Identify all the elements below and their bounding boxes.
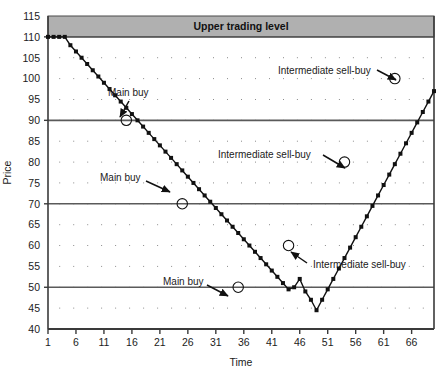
grid-dot bbox=[157, 224, 158, 225]
grid-dot bbox=[129, 308, 130, 309]
grid-dot bbox=[297, 99, 298, 100]
y-tick-label: 40 bbox=[28, 323, 40, 335]
price-point-marker bbox=[242, 237, 246, 241]
grid-dot bbox=[395, 141, 396, 142]
grid-dot bbox=[73, 141, 74, 142]
grid-dot bbox=[325, 78, 326, 79]
grid-dot bbox=[143, 78, 144, 79]
grid-dot bbox=[87, 266, 88, 267]
grid-dot bbox=[73, 57, 74, 58]
grid-dot bbox=[423, 162, 424, 163]
price-point-marker bbox=[415, 120, 419, 124]
grid-dot bbox=[423, 308, 424, 309]
grid-dot bbox=[87, 162, 88, 163]
price-point-marker bbox=[259, 256, 263, 260]
grid-dot bbox=[185, 78, 186, 79]
grid-dot bbox=[171, 162, 172, 163]
grid-dot bbox=[157, 78, 158, 79]
grid-dot bbox=[269, 141, 270, 142]
y-tick-label: 45 bbox=[28, 302, 40, 314]
grid-dot bbox=[129, 141, 130, 142]
grid-dot bbox=[297, 224, 298, 225]
grid-dot bbox=[353, 162, 354, 163]
grid-dot bbox=[381, 78, 382, 79]
grid-dot bbox=[171, 224, 172, 225]
grid-dot bbox=[395, 308, 396, 309]
grid-dot bbox=[171, 141, 172, 142]
grid-dot bbox=[367, 78, 368, 79]
price-point-marker bbox=[130, 112, 134, 116]
grid-dot bbox=[367, 224, 368, 225]
grid-dot bbox=[241, 245, 242, 246]
upper-trading-band-label: Upper trading level bbox=[193, 20, 288, 32]
y-axis-title: Price bbox=[1, 160, 13, 184]
price-point-marker bbox=[52, 35, 56, 39]
price-point-marker bbox=[85, 62, 89, 66]
price-point-marker bbox=[382, 183, 386, 187]
price-point-marker bbox=[102, 81, 106, 85]
grid-dot bbox=[395, 224, 396, 225]
price-point-marker bbox=[348, 246, 352, 250]
grid-dot bbox=[409, 224, 410, 225]
grid-dot bbox=[269, 162, 270, 163]
grid-dot bbox=[241, 308, 242, 309]
grid-dot bbox=[311, 308, 312, 309]
grid-dot bbox=[59, 308, 60, 309]
grid-dot bbox=[171, 308, 172, 309]
price-point-marker bbox=[175, 162, 179, 166]
grid-dot bbox=[241, 182, 242, 183]
upper-trading-band-group: Upper trading level bbox=[48, 16, 434, 37]
grid-dot bbox=[367, 182, 368, 183]
grid-dot bbox=[213, 57, 214, 58]
grid-dot bbox=[381, 57, 382, 58]
grid-dot bbox=[143, 99, 144, 100]
annotation-label-main-buy-70: Main buy bbox=[100, 172, 141, 183]
grid-dot bbox=[241, 162, 242, 163]
grid-dot bbox=[101, 162, 102, 163]
price-point-marker bbox=[410, 131, 414, 135]
grid-dot bbox=[87, 224, 88, 225]
price-point-marker bbox=[370, 204, 374, 208]
x-tick-label: 51 bbox=[322, 336, 334, 348]
grid-dot bbox=[185, 308, 186, 309]
x-tick-label: 46 bbox=[294, 336, 306, 348]
grid-dot bbox=[339, 245, 340, 246]
grid-dot bbox=[143, 57, 144, 58]
price-point-marker bbox=[298, 277, 302, 281]
grid-dot bbox=[129, 78, 130, 79]
price-point-marker bbox=[247, 244, 251, 248]
grid-dot bbox=[297, 78, 298, 79]
grid-dot bbox=[199, 162, 200, 163]
grid-dot bbox=[297, 266, 298, 267]
grid-dot bbox=[115, 245, 116, 246]
grid-dot bbox=[115, 224, 116, 225]
grid-dot bbox=[199, 308, 200, 309]
x-tick-label: 31 bbox=[210, 336, 222, 348]
grid-dot bbox=[311, 266, 312, 267]
grid-dot bbox=[325, 224, 326, 225]
grid-dot bbox=[269, 245, 270, 246]
price-point-marker bbox=[376, 193, 380, 197]
x-tick-label: 26 bbox=[182, 336, 194, 348]
grid-dot bbox=[171, 57, 172, 58]
grid-dot bbox=[339, 99, 340, 100]
price-point-marker bbox=[320, 298, 324, 302]
price-point-marker bbox=[421, 110, 425, 114]
grid-dot bbox=[227, 245, 228, 246]
y-tick-label: 115 bbox=[23, 10, 40, 22]
grid-dot bbox=[157, 308, 158, 309]
y-tick-label: 105 bbox=[22, 52, 40, 64]
y-tick-label: 110 bbox=[23, 31, 40, 43]
grid-dot bbox=[199, 224, 200, 225]
grid-dot bbox=[241, 57, 242, 58]
price-point-marker bbox=[136, 118, 140, 122]
grid-dot bbox=[297, 308, 298, 309]
y-tick-label: 70 bbox=[28, 198, 40, 210]
grid-dot bbox=[213, 182, 214, 183]
x-tick-label: 36 bbox=[238, 336, 250, 348]
grid-dot bbox=[59, 245, 60, 246]
grid-dot bbox=[269, 182, 270, 183]
grid-dot bbox=[171, 182, 172, 183]
grid-dot bbox=[283, 162, 284, 163]
grid-dot bbox=[227, 78, 228, 79]
